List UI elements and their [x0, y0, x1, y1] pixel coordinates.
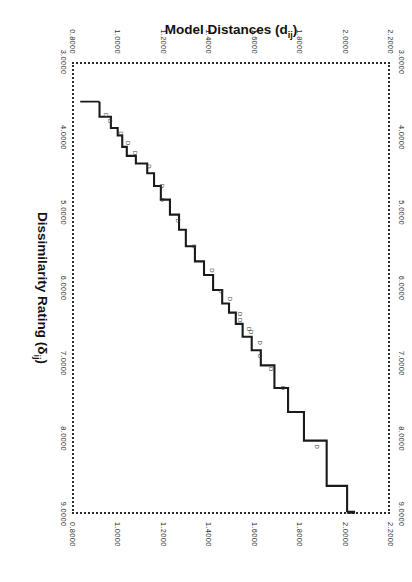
- data-point-marker: D: [209, 268, 215, 272]
- x-tick-label: 4.0000: [397, 125, 406, 150]
- chart-page: 3.00004.00005.00006.00007.00008.00009.00…: [0, 0, 412, 582]
- plot-area: DDDDDDDDDDDDDDDDDDDDDD: [72, 62, 390, 514]
- x-tick-label: 8.0000: [59, 426, 68, 451]
- x-axis-ticks-top: 3.00004.00005.00006.00007.00008.00009.00…: [394, 62, 406, 514]
- data-point-marker: D: [159, 197, 165, 201]
- rotated-figure-wrapper: 3.00004.00005.00006.00007.00008.00009.00…: [0, 0, 412, 582]
- data-point-marker: D: [280, 386, 286, 390]
- step-fit-line: [100, 102, 348, 513]
- y-tick-label: 1.8000: [295, 518, 304, 547]
- data-point-marker: D: [314, 445, 320, 449]
- y-axis-ticks-right: 0.80001.00001.20001.40001.60001.80002.00…: [72, 518, 390, 578]
- y-axis-title-text: Model Distances (d: [165, 22, 288, 37]
- x-tick-label: 5.0000: [397, 200, 406, 225]
- data-point-marker: D: [268, 367, 274, 371]
- x-tick-label: 7.0000: [397, 351, 406, 376]
- data-point-marker: D: [132, 151, 138, 155]
- x-tick-label: 5.0000: [59, 200, 68, 225]
- data-point-marker: D: [107, 119, 113, 123]
- x-tick-label: 6.0000: [59, 276, 68, 301]
- x-tick-label: 6.0000: [397, 276, 406, 301]
- data-point-marker: D: [248, 330, 254, 334]
- y-tick-label: 1.2000: [158, 518, 167, 547]
- shepard-diagram-figure: 3.00004.00005.00006.00007.00008.00009.00…: [0, 0, 412, 582]
- y-tick-label: 0.8000: [68, 518, 77, 547]
- x-axis-title-text: Dissimilarity Rating (: [35, 212, 50, 346]
- data-point-marker: D: [118, 131, 124, 135]
- x-axis-ticks-bottom: 3.00004.00005.00006.00007.00008.00009.00…: [56, 62, 68, 514]
- data-point-marker: D: [103, 113, 109, 117]
- x-tick-label: 4.0000: [59, 125, 68, 150]
- y-tick-label: 2.2000: [386, 518, 395, 547]
- data-point-marker: D: [175, 219, 181, 223]
- y-tick-label: 1.0000: [113, 518, 122, 547]
- y-tick-label: 2.0000: [340, 518, 349, 547]
- y-tick-label: 1.6000: [249, 518, 258, 547]
- data-point-marker: D: [237, 312, 243, 316]
- data-point-marker: D: [257, 341, 263, 345]
- data-point-marker: D: [227, 297, 233, 301]
- y-axis-title: Model Distances (dij): [72, 22, 390, 40]
- x-axis-title: Dissimilarity Rating (δij): [32, 62, 50, 514]
- x-axis-title-close: ): [35, 360, 50, 365]
- x-tick-label: 3.0000: [397, 50, 406, 75]
- y-tick-label: 1.4000: [204, 518, 213, 547]
- data-point-marker: D: [146, 164, 152, 168]
- data-point-marker: D: [257, 354, 263, 358]
- data-point-marker: D: [125, 141, 131, 145]
- data-point-marker: D: [191, 244, 197, 248]
- data-point-marker: D: [218, 289, 224, 293]
- x-tick-label: 7.0000: [59, 351, 68, 376]
- x-tick-label: 9.0000: [397, 502, 406, 527]
- x-tick-label: 8.0000: [397, 426, 406, 451]
- data-point-marker: D: [237, 318, 243, 322]
- data-point-marker: D: [159, 184, 165, 188]
- y-axis-title-close: ): [293, 22, 298, 37]
